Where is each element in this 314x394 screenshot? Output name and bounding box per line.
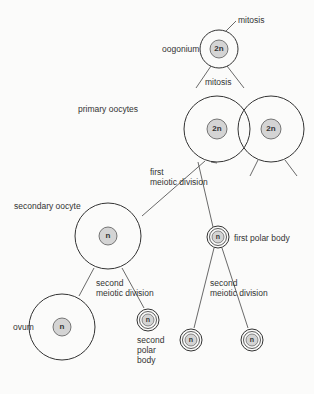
first-meiotic-label-line1: first xyxy=(150,167,164,177)
ovum-nucleus-label: n xyxy=(55,322,69,332)
second-meiotic-right-label-line1: second xyxy=(210,278,237,288)
second-meiotic-right-label-line2: meiotic division xyxy=(210,288,268,298)
polar-body-bottom-right-nucleus-label: n xyxy=(245,335,259,345)
secondary-oocyte-label: secondary oocyte xyxy=(14,201,81,211)
ovum-label: ovum xyxy=(13,322,34,332)
first-polar-body-label: first polar body xyxy=(234,233,290,243)
primary-oocyte-left-nucleus-label: 2n xyxy=(210,124,224,134)
second-polar-body-nucleus-label: n xyxy=(141,315,155,325)
second-polar-body-label-line3: body xyxy=(137,355,155,365)
second-meiotic-left-label-line1: second xyxy=(96,278,123,288)
polar-body-bottom-left-nucleus-label: n xyxy=(184,335,198,345)
second-polar-body-label-line1: second xyxy=(137,335,164,345)
primary-oocytes-label: primary oocytes xyxy=(78,104,138,114)
second-polar-body-label-line2: polar xyxy=(137,345,156,355)
first-polar-body-nucleus-label: n xyxy=(211,232,225,242)
oogonium-label: oogonium xyxy=(162,44,199,54)
first-meiotic-label-line2: meiotic division xyxy=(150,177,208,187)
mitosis-top-label: mitosis xyxy=(238,15,264,25)
primary-oocyte-right-nucleus-label: 2n xyxy=(264,124,278,134)
secondary-oocyte-nucleus-label: n xyxy=(101,231,115,241)
second-meiotic-left-label-line2: meiotic division xyxy=(96,288,154,298)
mitosis-mid-label: mitosis xyxy=(205,77,231,87)
oogonium-nucleus-label: 2n xyxy=(212,44,226,54)
